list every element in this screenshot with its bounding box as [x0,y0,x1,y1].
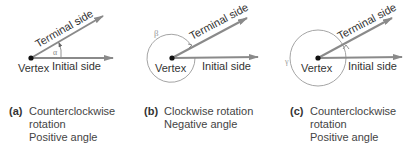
angle-symbol: γ [284,57,289,66]
caption-line: Positive angle [29,131,115,143]
panel-c: γ Terminal side Vertex Initial side [284,1,402,86]
caption-tag: (c) [290,105,303,118]
angle-symbol: α [53,48,58,57]
vertex-dot [28,55,33,60]
initial-side-label: Initial side [202,60,251,72]
caption-line: Counterclockwise [310,105,396,118]
initial-side-ray [172,57,258,58]
caption-line: Clockwise rotation [164,105,253,118]
caption-tag: (a) [9,105,22,118]
terminal-side-label: Terminal side [33,7,95,50]
caption-line: rotation [29,118,115,131]
panel-a: α Terminal side Vertex Initial side [18,7,113,74]
vertex-label: Vertex [155,62,187,74]
terminal-side-label: Terminal side [335,1,398,42]
caption-line: rotation [310,118,396,131]
vertex-label: Vertex [18,62,50,74]
caption-line: Counterclockwise [29,105,115,118]
caption-line: Positive angle [310,131,396,143]
angle-arc [59,43,61,57]
panel-b: β Terminal side Vertex Initial side [147,1,258,83]
vertex-dot [315,55,320,60]
caption-line: Negative angle [164,118,253,131]
caption-tag: (b) [144,105,158,118]
vertex-label: Vertex [301,62,333,74]
initial-side-label: Initial side [52,60,101,72]
vertex-dot [169,55,174,60]
angle-symbol: β [154,28,159,38]
initial-side-label: Initial side [348,60,397,72]
initial-side-ray [318,57,402,58]
